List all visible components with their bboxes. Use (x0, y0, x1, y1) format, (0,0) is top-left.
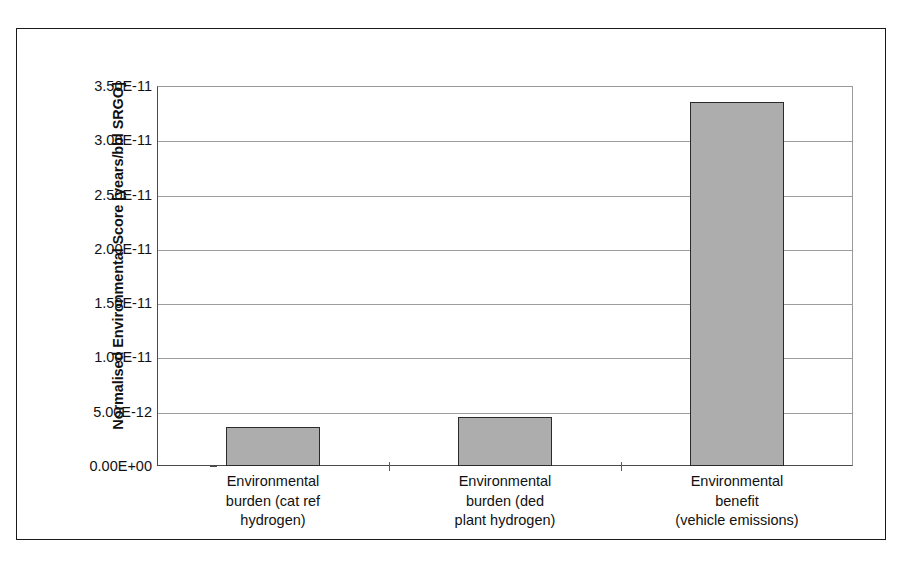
y-axis-tick-label: 5.00E-12 (60, 404, 152, 420)
category-label-line: burden (ded (389, 492, 621, 512)
category-label-line: Environmental (621, 472, 853, 492)
category-label: Environmentalbenefit(vehicle emissions) (621, 472, 853, 531)
y-axis-tick-label: 3.00E-11 (60, 132, 152, 148)
category-label-line: plant hydrogen) (389, 511, 621, 531)
y-axis-tick-label: 2.50E-11 (60, 187, 152, 203)
category-label-line: hydrogen) (157, 511, 389, 531)
bar (690, 102, 784, 466)
category-label-line: Environmental (157, 472, 389, 492)
y-axis-tick-label: 3.50E-11 (60, 78, 152, 94)
category-label-line: burden (cat ref (157, 492, 389, 512)
y-axis-tick-labels: 0.00E+005.00E-121.00E-111.50E-112.00E-11… (60, 0, 152, 570)
category-label: Environmentalburden (cat refhydrogen) (157, 472, 389, 531)
y-axis-tick-mark (210, 466, 217, 467)
chart-figure: Normalised Environmental Score [years/bb… (0, 0, 913, 570)
category-label-line: (vehicle emissions) (621, 511, 853, 531)
bar (458, 417, 552, 466)
bar (226, 427, 320, 466)
y-axis-tick-label: 1.50E-11 (60, 295, 152, 311)
y-axis-tick-label: 0.00E+00 (60, 458, 152, 474)
y-axis-tick-label: 2.00E-11 (60, 241, 152, 257)
x-axis-tick-mark (389, 462, 390, 471)
y-axis-tick-label: 1.00E-11 (60, 349, 152, 365)
x-axis-tick-mark (621, 462, 622, 471)
category-label-line: benefit (621, 492, 853, 512)
category-label-line: Environmental (389, 472, 621, 492)
category-label: Environmentalburden (dedplant hydrogen) (389, 472, 621, 531)
